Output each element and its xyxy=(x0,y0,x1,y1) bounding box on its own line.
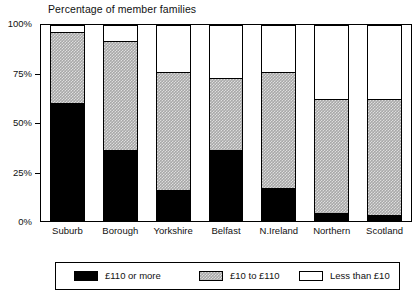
bars-layer xyxy=(41,25,411,221)
x-tick-label-yorkshire: Yorkshire xyxy=(154,225,193,237)
x-tick-label-belfast: Belfast xyxy=(211,225,240,237)
bar-segment xyxy=(314,213,349,221)
bar-yorkshire xyxy=(156,25,191,221)
bar-group xyxy=(209,25,244,221)
bar-segment xyxy=(103,150,138,221)
legend-label: Less than £10 xyxy=(330,271,390,281)
bar-n-ireland xyxy=(261,25,296,221)
x-axis: SuburbBoroughYorkshireBelfastN.IrelandNo… xyxy=(40,225,412,241)
bar-scotland xyxy=(367,25,402,221)
bar-borough xyxy=(103,25,138,221)
x-tick-label-northern: Northern xyxy=(313,225,350,237)
bar-group xyxy=(50,25,85,221)
x-tick-label-borough: Borough xyxy=(102,225,138,237)
y-tick-label: 100% xyxy=(8,19,32,29)
y-tick-label: 25% xyxy=(13,168,32,178)
stacked-bar-chart: Percentage of member families 0%25%50%75… xyxy=(0,0,416,298)
legend-item[interactable]: £10 to £110 xyxy=(199,271,279,281)
bar-group xyxy=(367,25,402,221)
legend-swatch-icon xyxy=(199,271,223,281)
chart-legend: £110 or more£10 to £110Less than £10 xyxy=(55,262,400,290)
bar-group xyxy=(156,25,191,221)
y-axis: 0%25%50%75%100% xyxy=(0,24,40,222)
bar-group xyxy=(261,25,296,221)
bar-suburb xyxy=(50,25,85,221)
y-tick-label: 75% xyxy=(13,69,32,79)
bar-segment xyxy=(314,99,349,221)
bar-group xyxy=(103,25,138,221)
bar-segment xyxy=(367,215,402,221)
legend-item[interactable]: £110 or more xyxy=(74,271,161,281)
legend-label: £110 or more xyxy=(105,271,161,281)
bar-northern xyxy=(314,25,349,221)
x-tick-label-n-ireland: N.Ireland xyxy=(260,225,299,237)
bar-segment xyxy=(156,190,191,221)
legend-label: £10 to £110 xyxy=(230,271,279,281)
legend-item[interactable]: Less than £10 xyxy=(299,271,390,281)
bar-group xyxy=(314,25,349,221)
y-tick-label: 50% xyxy=(13,118,32,128)
x-tick-label-suburb: Suburb xyxy=(52,225,83,237)
bar-segment xyxy=(50,103,85,221)
bar-segment xyxy=(261,188,296,221)
bar-segment xyxy=(209,150,244,221)
y-tick-label: 0% xyxy=(18,217,32,227)
x-tick-label-scotland: Scotland xyxy=(366,225,403,237)
bar-belfast xyxy=(209,25,244,221)
legend-swatch-icon xyxy=(74,271,98,281)
chart-title: Percentage of member families xyxy=(48,3,196,15)
bar-segment xyxy=(367,99,402,221)
legend-swatch-icon xyxy=(299,271,323,281)
